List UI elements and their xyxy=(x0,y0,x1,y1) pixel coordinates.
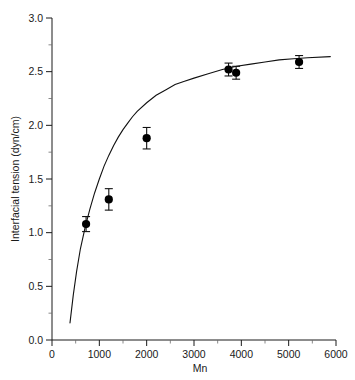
data-point xyxy=(232,66,240,79)
data-marker xyxy=(143,134,151,142)
y-tick-label: 0.0 xyxy=(28,334,43,346)
y-axis: 0.00.51.01.52.02.53.0 Interfacial tensio… xyxy=(9,12,52,346)
data-marker xyxy=(82,220,90,228)
chart-canvas: 0.00.51.01.52.02.53.0 Interfacial tensio… xyxy=(0,0,355,380)
x-axis-title: Mn xyxy=(193,362,208,374)
y-axis-tick-labels: 0.00.51.01.52.02.53.0 xyxy=(28,12,43,346)
data-point xyxy=(82,217,90,232)
x-tick-label: 0 xyxy=(49,348,55,360)
y-tick-label: 2.0 xyxy=(28,119,43,131)
data-marker xyxy=(232,69,240,77)
data-marker xyxy=(295,58,303,66)
x-tick-label: 4000 xyxy=(230,348,254,360)
x-tick-label: 6000 xyxy=(324,348,348,360)
data-point xyxy=(105,189,113,210)
y-tick-label: 1.0 xyxy=(28,226,43,238)
x-tick-label: 2000 xyxy=(135,348,159,360)
y-axis-title: Interfacial tension (dyn/cm) xyxy=(9,116,21,242)
interfacial-tension-figure: 0.00.51.01.52.02.53.0 Interfacial tensio… xyxy=(0,0,355,380)
y-axis-ticks xyxy=(46,18,52,340)
data-marker xyxy=(105,195,113,203)
x-tick-label: 3000 xyxy=(182,348,206,360)
data-point xyxy=(143,127,151,148)
x-tick-label: 1000 xyxy=(88,348,112,360)
x-axis-tick-labels: 0100020003000400050006000 xyxy=(49,348,348,360)
data-point xyxy=(295,56,303,69)
x-axis-ticks xyxy=(52,340,336,346)
x-axis: 0100020003000400050006000 Mn xyxy=(49,340,348,374)
y-tick-label: 2.5 xyxy=(28,65,43,77)
y-tick-label: 1.5 xyxy=(28,173,43,185)
data-point xyxy=(224,63,232,76)
data-marker xyxy=(224,65,232,73)
y-tick-label: 0.5 xyxy=(28,280,43,292)
x-tick-label: 5000 xyxy=(277,348,301,360)
y-tick-label: 3.0 xyxy=(28,12,43,24)
